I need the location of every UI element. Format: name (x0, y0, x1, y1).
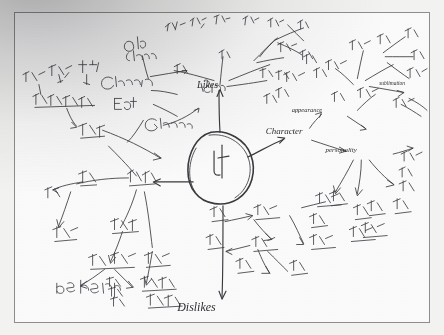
label-energy-loss (107, 277, 125, 306)
upper-left-cluster (127, 56, 199, 142)
label-good-friend (89, 252, 136, 269)
label-childhood (79, 123, 105, 138)
label-likes: Likes (196, 79, 218, 90)
label-sublimation: sublimation (379, 80, 405, 86)
far-upper-left-cluster (23, 61, 99, 95)
label-appearance: appearance (292, 106, 323, 113)
center-node (188, 132, 253, 204)
right-cluster-scribbles (264, 28, 427, 107)
upper-left-connectors (67, 108, 162, 160)
paper-frame: 나 (14, 12, 430, 323)
dislikes-children (206, 181, 414, 275)
upper-left-korean-line (33, 93, 95, 107)
label-character: Character (266, 126, 303, 136)
photograph-of-mindmap: 나 (0, 0, 444, 335)
personality-children (310, 151, 422, 249)
hardships-sublabels (53, 219, 182, 308)
upper-left-writing (101, 37, 192, 131)
label-dislikes: Dislikes (176, 300, 216, 314)
branch-hardships (53, 146, 153, 288)
branch-likes (174, 25, 303, 87)
mindmap-drawing: 나 (15, 13, 429, 322)
label-hardships (127, 170, 156, 186)
english-labels: Likes Character Dislikes appearance pers… (176, 79, 405, 315)
appearance-fan (335, 37, 427, 116)
label-personality: personality (324, 146, 357, 154)
main-spokes (153, 90, 284, 300)
likes-upper-scribbles (165, 15, 316, 80)
